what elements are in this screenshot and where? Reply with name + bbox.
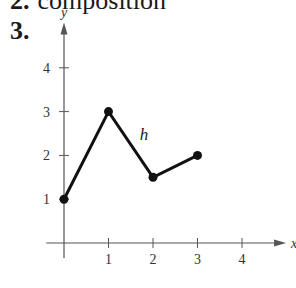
x-tick-label: 1 [105,252,112,267]
y-tick-label: 1 [43,192,50,207]
x-tick-label: 2 [150,252,157,267]
data-point [104,107,113,116]
y-tick-label: 2 [43,148,50,163]
function-curve-h [64,112,198,200]
data-point [149,173,158,182]
curve-label: h [140,125,149,144]
x-axis-label: x [290,236,296,251]
y-tick-label: 4 [43,61,50,76]
data-point [193,151,202,160]
y-axis-arrow-icon [61,22,68,34]
function-graph: xy12341234h [0,0,296,288]
x-axis-arrow-icon [274,240,286,247]
y-tick-label: 3 [43,105,50,120]
x-tick-label: 4 [239,252,246,267]
y-axis-label: y [59,5,68,20]
data-point [60,195,69,204]
x-tick-label: 3 [194,252,201,267]
